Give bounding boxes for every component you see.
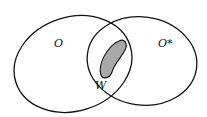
venn-diagram: O O* W (0, 0, 207, 117)
diagram-svg (0, 0, 207, 117)
set-o-star-label: O* (158, 38, 173, 49)
set-o-label: O (54, 38, 63, 49)
region-w-shape (100, 40, 126, 78)
region-w-label: W (95, 80, 106, 91)
set-o-star-ellipse (81, 10, 202, 112)
